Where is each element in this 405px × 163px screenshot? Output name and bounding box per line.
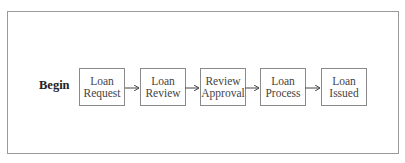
edge-arrows [0, 0, 405, 163]
